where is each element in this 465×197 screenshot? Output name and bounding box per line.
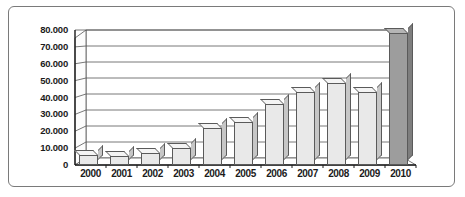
bar-side (408, 23, 413, 160)
bar-2009 (358, 92, 377, 165)
y-axis-tick-label: 0 (20, 159, 68, 170)
x-axis-tick-label: 2007 (293, 168, 323, 179)
y-axis-tick-label: 70.000 (20, 41, 68, 52)
bar-side (377, 82, 382, 160)
bar-side (284, 94, 289, 160)
x-axis-tick-label: 2009 (355, 168, 385, 179)
bar-face (203, 128, 222, 165)
x-axis-tick-label: 2008 (324, 168, 354, 179)
bar-2002 (141, 153, 160, 165)
y-axis-tick-label: 20.000 (20, 125, 68, 136)
y-axis-tick-label: 40.000 (20, 92, 68, 103)
bar-2010 (389, 33, 408, 165)
bar-side (346, 73, 351, 160)
bar-face (296, 92, 315, 165)
x-axis-tick-label: 2005 (231, 168, 261, 179)
bar-face (141, 153, 160, 165)
bar-top (322, 78, 346, 83)
bar-face (172, 148, 191, 165)
y-axis-tick-label: 80.000 (20, 24, 68, 35)
x-axis-tick-label: 2003 (169, 168, 199, 179)
bar-side (253, 112, 258, 160)
y-axis-tick-label: 10.000 (20, 142, 68, 153)
bar-top (260, 99, 284, 104)
bar-top (229, 117, 253, 122)
x-axis-tick-label: 2010 (386, 168, 416, 179)
bar-face (234, 122, 253, 165)
bar-2004 (203, 128, 222, 165)
x-axis-tick-label: 2001 (107, 168, 137, 179)
y-axis-tick-label: 50.000 (20, 75, 68, 86)
bar-2007 (296, 92, 315, 165)
x-axis-tick-label: 2002 (138, 168, 168, 179)
bar-top (74, 150, 98, 155)
bar-top (198, 123, 222, 128)
bar-2006 (265, 104, 284, 165)
bar-face (265, 104, 284, 165)
bar-side (222, 118, 227, 160)
bar-top (136, 148, 160, 153)
y-axis-tick-label: 60.000 (20, 58, 68, 69)
bar-face (79, 155, 98, 165)
bar-face (110, 156, 129, 165)
bar-2005 (234, 122, 253, 165)
bar-top (105, 151, 129, 156)
bar-2000 (79, 155, 98, 165)
bar-top (167, 143, 191, 148)
bar-2001 (110, 156, 129, 165)
x-axis-tick-label: 2000 (76, 168, 106, 179)
bar-face (358, 92, 377, 165)
bar-2008 (327, 83, 346, 165)
x-axis-tick-label: 2004 (200, 168, 230, 179)
bar-face (389, 33, 408, 165)
bar-chart: 010.00020.00030.00040.00050.00060.00070.… (0, 0, 465, 197)
bar-side (315, 82, 320, 160)
y-axis-tick-label: 30.000 (20, 108, 68, 119)
bar-2003 (172, 148, 191, 165)
bar-face (327, 83, 346, 165)
x-axis-tick-label: 2006 (262, 168, 292, 179)
